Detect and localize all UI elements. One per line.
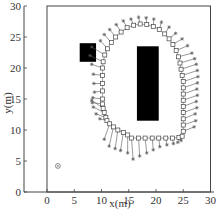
asterisk-marker (114, 23, 118, 27)
square-marker (181, 129, 185, 133)
square-marker (181, 104, 185, 108)
square-marker (143, 136, 147, 140)
square-marker (102, 111, 106, 115)
y-tick-label: 0 (16, 186, 22, 198)
square-marker (170, 136, 174, 140)
square-marker (151, 24, 155, 28)
square-marker (181, 117, 185, 121)
square-marker (105, 47, 109, 51)
x-tick-label: 5 (72, 194, 78, 206)
x-tick-label: 20 (151, 194, 163, 206)
asterisk-marker (190, 51, 194, 55)
square-marker (129, 136, 133, 140)
asterisk-marker (99, 39, 103, 43)
square-marker (167, 37, 171, 41)
asterisk-marker (196, 81, 200, 85)
asterisk-marker (88, 54, 92, 58)
asterisk-marker (195, 62, 199, 66)
asterisk-marker (186, 44, 190, 48)
square-marker (181, 86, 185, 90)
square-marker (180, 134, 184, 138)
start-dot (57, 165, 59, 167)
asterisk-marker (196, 93, 200, 97)
asterisk-marker (119, 149, 123, 153)
square-marker (157, 136, 161, 140)
square-marker (138, 22, 142, 26)
square-marker (171, 42, 175, 46)
square-marker (150, 136, 154, 140)
asterisk-marker (131, 157, 135, 161)
square-marker (163, 32, 167, 36)
asterisk-marker (193, 57, 197, 61)
connector-line (131, 138, 133, 159)
square-marker (101, 89, 105, 93)
asterisk-marker (144, 16, 148, 20)
y-tick-label: 5 (16, 155, 22, 167)
asterisk-marker (92, 105, 96, 109)
asterisk-marker (167, 25, 171, 29)
y-tick-label: 25 (10, 31, 22, 43)
square-marker (101, 73, 105, 77)
asterisk-marker (194, 119, 198, 123)
square-marker (101, 60, 105, 64)
start-marker (56, 164, 61, 169)
x-tick-label: 10 (96, 194, 108, 206)
square-marker (137, 136, 141, 140)
tick-labels: 051015202530051015202530 (10, 0, 217, 206)
y-tick-label: 30 (10, 0, 22, 12)
square-marker (145, 23, 149, 27)
asterisk-marker (195, 87, 199, 91)
asterisk-marker (138, 154, 142, 158)
square-marker (125, 26, 129, 30)
asterisk-marker (107, 144, 111, 148)
asterisk-marker (94, 112, 98, 116)
asterisk-marker (102, 138, 106, 142)
square-marker (119, 30, 123, 34)
asterisk-marker (122, 19, 126, 23)
square-marker (164, 136, 168, 140)
connector-line (121, 132, 124, 150)
asterisk-marker (192, 125, 196, 129)
asterisk-marker (165, 143, 169, 147)
asterisk-marker (129, 17, 133, 21)
asterisk-marker (196, 69, 200, 73)
asterisk-marker (151, 148, 155, 152)
asterisk-marker (145, 151, 149, 155)
square-marker (179, 67, 183, 71)
asterisk-marker (180, 37, 184, 41)
square-marker (174, 49, 178, 53)
square-marker (101, 97, 105, 101)
square-marker (176, 55, 180, 59)
asterisk-marker (102, 33, 106, 37)
asterisk-marker (193, 112, 197, 116)
asterisk-marker (113, 147, 117, 151)
asterisk-marker (92, 82, 96, 86)
asterisk-marker (195, 106, 199, 110)
connector-line (115, 130, 118, 149)
large-obstacle (137, 46, 159, 120)
asterisk-marker (98, 117, 102, 121)
square-marker (114, 35, 118, 39)
asterisk-marker (108, 28, 112, 32)
square-marker (132, 23, 136, 27)
asterisk-marker (91, 96, 95, 100)
asterisk-marker (90, 62, 94, 66)
connector-line (109, 127, 113, 146)
connector-line (139, 138, 140, 156)
asterisk-marker (196, 75, 200, 79)
x-tick-label: 0 (44, 194, 50, 206)
square-marker (157, 28, 161, 32)
square-marker (103, 53, 107, 57)
y-tick-label: 20 (10, 62, 22, 74)
asterisk-marker (152, 17, 156, 21)
square-marker (108, 122, 112, 126)
square-marker (109, 41, 113, 45)
square-marker (181, 123, 185, 127)
asterisk-marker (172, 142, 176, 146)
square-marker (111, 125, 115, 129)
square-marker (101, 66, 105, 70)
square-marker (178, 61, 182, 65)
square-marker (181, 80, 185, 84)
x-axis-label: x(m) (109, 197, 131, 210)
asterisk-marker (174, 31, 178, 35)
